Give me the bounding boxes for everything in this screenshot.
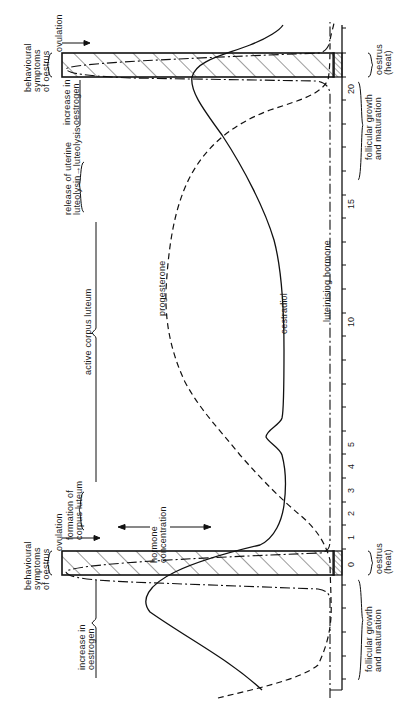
label-increase-oestrogen-top: increase in oestrogen <box>63 79 81 125</box>
label-ovulation-bottom: ovulation <box>55 513 64 551</box>
tick-label-0: 0 <box>347 562 356 567</box>
label-oestradiol: oestradiol <box>280 293 289 334</box>
label-active-corpus-luteum: active corpus luteum <box>84 288 93 375</box>
tick-label-5: 5 <box>347 442 356 447</box>
label-follicular-bottom: follicular growth and maturation <box>365 606 383 672</box>
label-ovulation-top: ovulation <box>55 14 64 52</box>
label-formation-corpus-luteum: formation of corpus luteum <box>66 481 84 540</box>
label-hormone-concentration: hormone concentration <box>150 506 168 563</box>
tick-label-3: 3 <box>347 488 356 493</box>
tick-label-20: 20 <box>347 84 356 94</box>
oestrous-cycle-diagram: behavioural symptoms of oestrus ovulatio… <box>0 0 409 711</box>
label-oestrus-bottom: oestrus (heat) <box>375 543 393 574</box>
label-increase-oestrogen-bottom: increase in oestrogen <box>78 624 96 670</box>
tick-label-4: 4 <box>347 464 356 469</box>
luteinising-hormone-curve <box>66 22 330 698</box>
tick-label-15: 15 <box>347 199 356 209</box>
label-luteinising-hormone: luteinising hormone <box>323 240 332 322</box>
tick-label-1: 1 <box>347 535 356 540</box>
label-follicular-top: follicular growth and maturation <box>365 94 383 160</box>
progesterone-curve <box>166 22 334 698</box>
label-release-luteolysin: release of uterine luteolysin→luteolysis <box>64 127 82 215</box>
label-behavioural-bottom: behavioural symptoms of oestrus <box>24 541 51 590</box>
day-axis <box>330 25 346 690</box>
oestrus-bar-top <box>62 53 342 77</box>
tick-label-10: 10 <box>347 317 356 327</box>
label-progesterone: progesterone <box>158 261 167 316</box>
oestrus-bar-bottom <box>62 551 342 575</box>
label-behavioural-top: behavioural symptoms of oestrus <box>24 43 51 92</box>
label-oestrus-top: oestrus (heat) <box>375 44 393 75</box>
tick-label-2: 2 <box>347 511 356 516</box>
oestradiol-curve <box>146 25 285 690</box>
